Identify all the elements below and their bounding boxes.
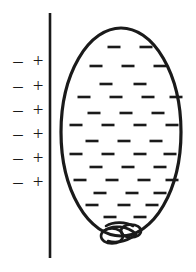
wall-positive-sign: + [33,171,44,192]
wall-negative-sign: – [12,75,23,96]
wall-negative-sign: – [12,123,23,144]
wall-positive-sign: + [33,147,44,168]
physics-diagram-canvas: – + – + – + – + – + – + [0,0,196,272]
wall-negative-sign: – [12,147,23,168]
wall-negative-sign: – [12,99,23,120]
wall-negative-sign: – [12,171,23,192]
wall-positive-sign: + [33,99,44,120]
balloon-wall-charge-diagram: – + – + – + – + – + – + [0,0,196,272]
wall-positive-sign: + [33,50,44,71]
wall-positive-sign: + [33,123,44,144]
wall-positive-sign: + [33,75,44,96]
wall-negative-sign: – [12,50,23,71]
